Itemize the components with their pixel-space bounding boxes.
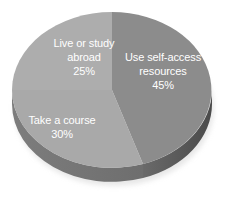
pie-chart: Live or study abroad 25% Use self-access…	[0, 0, 233, 207]
pie-chart-graphic	[0, 0, 233, 207]
label-live-or-study-abroad: Live or study abroad 25%	[53, 36, 114, 78]
label-value: 25%	[53, 64, 114, 78]
label-line: resources	[125, 64, 201, 78]
label-take-a-course: Take a course 30%	[28, 113, 95, 141]
label-value: 45%	[125, 78, 201, 92]
label-line: Use self-access	[125, 50, 201, 64]
label-line: Take a course	[28, 113, 95, 127]
label-use-self-access-resources: Use self-access resources 45%	[125, 50, 201, 92]
label-line: abroad	[53, 50, 114, 64]
label-line: Live or study	[53, 36, 114, 50]
label-value: 30%	[28, 127, 95, 141]
